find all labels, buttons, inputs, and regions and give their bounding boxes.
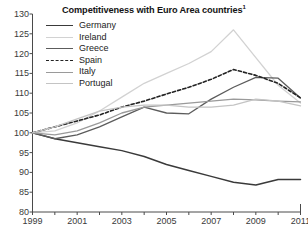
legend-item-germany[interactable]: Germany — [46, 20, 116, 32]
legend-label: Spain — [79, 55, 102, 67]
series-line-portugal — [33, 99, 301, 133]
legend-label: Italy — [79, 66, 96, 78]
legend-swatch-spain — [46, 60, 73, 61]
legend-label: Greece — [79, 43, 109, 55]
legend-swatch-portugal — [46, 83, 73, 84]
legend-label: Ireland — [79, 32, 107, 44]
legend-swatch-germany — [46, 25, 73, 26]
legend-label: Portugal — [79, 78, 113, 90]
chart-container: Competitiveness with Euro Area countries… — [0, 0, 308, 240]
legend-item-greece[interactable]: Greece — [46, 43, 116, 55]
legend-item-ireland[interactable]: Ireland — [46, 32, 116, 44]
legend-swatch-ireland — [46, 37, 73, 38]
legend-item-portugal[interactable]: Portugal — [46, 78, 116, 90]
legend-item-spain[interactable]: Spain — [46, 55, 116, 67]
chart-legend: GermanyIrelandGreeceSpainItalyPortugal — [46, 20, 116, 90]
legend-swatch-italy — [46, 72, 73, 73]
series-line-germany — [33, 133, 301, 185]
legend-swatch-greece — [46, 48, 73, 49]
legend-label: Germany — [79, 20, 116, 32]
legend-item-italy[interactable]: Italy — [46, 66, 116, 78]
